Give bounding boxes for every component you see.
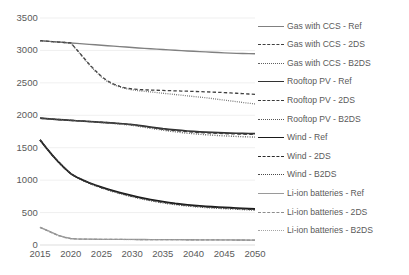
y-axis-tick-label: 1500 (2, 143, 38, 153)
series-line (40, 227, 255, 240)
legend-line-swatch (258, 169, 284, 179)
legend-item-label: Li-ion batteries - B2DS (287, 225, 373, 235)
legend-line-swatch (258, 207, 284, 217)
legend-line-swatch (258, 151, 284, 161)
legend-line-swatch (258, 225, 284, 235)
legend-item[interactable]: Gas with CCS - B2DS (258, 57, 371, 68)
y-axis-tick-label: 1000 (2, 175, 38, 185)
legend-item[interactable]: Rooftop PV - 2DS (258, 94, 355, 105)
legend-item-label: Wind - Ref (287, 132, 327, 142)
x-axis-tick-label: 2030 (122, 248, 143, 259)
legend-item-label: Gas with CCS - 2DS (287, 39, 365, 49)
legend-item-label: Gas with CCS - Ref (287, 21, 362, 31)
x-axis-tick-label: 2045 (214, 248, 235, 259)
y-axis-tick-label: 3000 (2, 45, 38, 55)
legend-line-swatch (258, 132, 284, 142)
x-axis-tick-label: 2020 (60, 248, 81, 259)
x-axis-tick-label: 2035 (152, 248, 173, 259)
plot-area (40, 18, 255, 245)
legend-item[interactable]: Wind - B2DS (258, 169, 336, 180)
y-axis-tick-label: 3500 (2, 13, 38, 23)
legend-item[interactable]: Li-ion batteries - B2DS (258, 225, 373, 236)
y-axis-tick-label: 500 (2, 208, 38, 218)
legend-item[interactable]: Li-ion batteries - 2DS (258, 206, 367, 217)
legend-item[interactable]: Rooftop PV - B2DS (258, 113, 361, 124)
legend-line-swatch (258, 21, 284, 31)
legend-item[interactable]: Wind - Ref (258, 132, 327, 143)
series-line (40, 41, 255, 54)
legend-item[interactable]: Rooftop PV - Ref (258, 76, 352, 87)
series-line (40, 227, 255, 240)
x-axis-tick-label: 2040 (183, 248, 204, 259)
x-axis: 20152020202520302035204020452050 (40, 248, 255, 262)
chart-legend: Gas with CCS - RefGas with CCS - 2DSGas … (258, 20, 409, 252)
legend-item[interactable]: Li-ion batteries - Ref (258, 187, 364, 198)
legend-item-label: Li-ion batteries - 2DS (287, 207, 367, 217)
x-axis-tick-label: 2025 (91, 248, 112, 259)
x-axis-tick-label: 2015 (29, 248, 50, 259)
legend-item-label: Gas with CCS - B2DS (287, 58, 371, 68)
legend-line-swatch (258, 188, 284, 198)
legend-item-label: Wind - B2DS (287, 169, 336, 179)
legend-item[interactable]: Wind - 2DS (258, 150, 331, 161)
legend-item[interactable]: Gas with CCS - Ref (258, 20, 362, 31)
y-axis-tick-label: 2500 (2, 78, 38, 88)
legend-line-swatch (258, 114, 284, 124)
series-lines (40, 41, 255, 241)
legend-line-swatch (258, 39, 284, 49)
legend-item-label: Li-ion batteries - Ref (287, 188, 364, 198)
legend-item[interactable]: Gas with CCS - 2DS (258, 39, 365, 50)
legend-line-swatch (258, 95, 284, 105)
legend-item-label: Rooftop PV - B2DS (287, 114, 361, 124)
legend-item-label: Rooftop PV - 2DS (287, 95, 355, 105)
legend-item-label: Wind - 2DS (287, 151, 331, 161)
legend-line-swatch (258, 76, 284, 86)
y-axis-tick-label: 2000 (2, 110, 38, 120)
legend-item-label: Rooftop PV - Ref (287, 76, 352, 86)
y-axis: 3500300025002000150010005000 (0, 18, 38, 245)
legend-line-swatch (258, 58, 284, 68)
gridlines (40, 18, 255, 245)
plot-svg (40, 18, 255, 245)
line-chart: 3500300025002000150010005000 20152020202… (0, 0, 409, 275)
